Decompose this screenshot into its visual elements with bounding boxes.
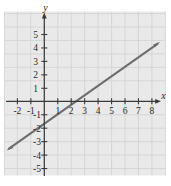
- x-tick-label: 5: [109, 106, 114, 116]
- x-tick-label: 3: [82, 106, 87, 116]
- x-axis-label: x: [160, 90, 166, 101]
- y-tick-label: 3: [33, 57, 38, 67]
- y-tick-label: 4: [33, 43, 38, 53]
- y-tick-label: -1: [33, 110, 41, 120]
- x-tick-label: 6: [123, 106, 128, 116]
- x-tick-label: 2: [69, 106, 74, 116]
- coordinate-plane-chart: -2 -1 1 2 3 4 5 6 7 8 5 4 3 2 1 -1 -2 -3…: [0, 0, 171, 186]
- graph-figure: -2 -1 1 2 3 4 5 6 7 8 5 4 3 2 1 -1 -2 -3…: [0, 0, 171, 186]
- y-tick-label: -4: [33, 151, 41, 161]
- y-tick-label: -5: [33, 164, 41, 174]
- y-axis-label: y: [42, 2, 48, 13]
- x-tick-label: 4: [96, 106, 101, 116]
- x-tick-label: 1: [55, 106, 60, 116]
- y-tick-label: 1: [33, 84, 38, 94]
- x-tick-label: 7: [136, 106, 141, 116]
- y-tick-label: 2: [33, 70, 38, 80]
- y-tick-label: -2: [33, 124, 41, 134]
- y-tick-label: -3: [33, 137, 41, 147]
- x-tick-label: 8: [150, 106, 155, 116]
- y-tick-label: 5: [33, 30, 38, 40]
- x-tick-label: -2: [13, 106, 21, 116]
